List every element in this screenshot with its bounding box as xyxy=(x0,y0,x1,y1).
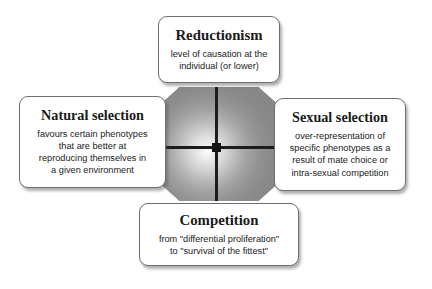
concept-body-line: over-representation of xyxy=(290,130,391,142)
concept-box-reductionism: Reductionism level of causation at the i… xyxy=(158,16,280,83)
concept-body-line: favours certain phenotypes xyxy=(37,128,147,140)
concept-box-natural-selection: Natural selection favours certain phenot… xyxy=(19,96,166,188)
concept-title-natural-selection: Natural selection xyxy=(41,108,144,124)
concept-title-sexual-selection: Sexual selection xyxy=(292,110,388,126)
concept-body-line: specific phenotypes as a xyxy=(290,142,391,154)
concept-body-line: reproducing themselves in xyxy=(37,152,147,164)
concept-body-line: result of mate choice or xyxy=(290,154,391,166)
concept-body-sexual-selection: over-representation of specific phenotyp… xyxy=(290,130,391,179)
concept-body-line: from "differential proliferation" xyxy=(159,233,279,245)
concept-title-competition: Competition xyxy=(180,212,259,229)
concept-diagram: Reductionism level of causation at the i… xyxy=(0,0,432,289)
concept-body-line: individual (or lower) xyxy=(171,60,268,72)
concept-box-sexual-selection: Sexual selection over-representation of … xyxy=(274,98,406,191)
concept-body-line: that are better at xyxy=(37,140,147,152)
concept-title-reductionism: Reductionism xyxy=(175,27,262,44)
crosshair-center-node xyxy=(212,143,221,152)
concept-box-competition: Competition from "differential prolifera… xyxy=(139,203,299,266)
concept-body-reductionism: level of causation at the individual (or… xyxy=(171,48,268,72)
concept-body-line: a given environment xyxy=(37,164,147,176)
concept-body-natural-selection: favours certain phenotypes that are bett… xyxy=(37,128,147,177)
concept-body-line: intra-sexual competition xyxy=(290,167,391,179)
concept-body-line: to "survival of the fittest" xyxy=(159,245,279,257)
concept-body-competition: from "differential proliferation" to "su… xyxy=(159,233,279,257)
concept-body-line: level of causation at the xyxy=(171,48,268,60)
